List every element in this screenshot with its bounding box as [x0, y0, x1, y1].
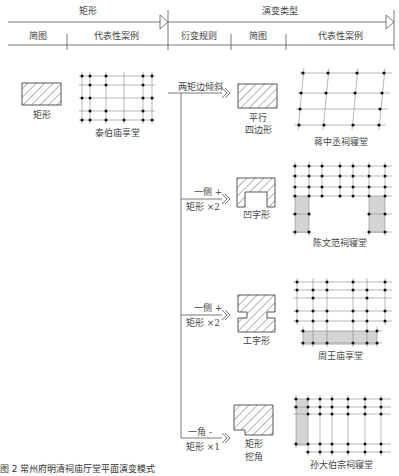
parallelogram-shape-icon	[238, 84, 277, 108]
header-group1-title: 矩形	[79, 6, 97, 17]
header-col-rule: 衍变规则	[181, 31, 217, 42]
branch-3-shape-label: 工字形	[243, 336, 270, 347]
branch-4-shape-label-2: 挖角	[245, 452, 263, 463]
plan-4-grid	[293, 395, 391, 456]
header-lines	[8, 10, 394, 50]
header-col-sketch-2: 简图	[249, 31, 267, 42]
branch-lines	[168, 93, 222, 438]
figure-caption: 图 2 常州府明清祠庙厅堂平面演变模式	[0, 462, 155, 475]
concave-shape-icon	[237, 178, 275, 207]
branch-1-rule: 两矩边倾斜	[178, 82, 223, 93]
branch-1-shape-label-2: 四边形	[245, 125, 272, 136]
plan-1-columns	[297, 71, 385, 126]
origin-shape-label: 矩形	[33, 110, 51, 121]
plan-4-shade	[296, 399, 308, 446]
header-col-cases-1: 代表性案例	[94, 31, 139, 42]
branch-2-rule-1: 一侧 +	[194, 187, 222, 198]
rectangle-shape-icon	[22, 83, 61, 105]
branch-3-rule-2: 矩形 ×2	[186, 318, 220, 329]
plan-2-shade-right	[369, 196, 385, 233]
branch-2-shape-label: 凹字形	[243, 210, 270, 221]
plan-1-grid	[294, 68, 392, 130]
header-col-cases-2: 代表性案例	[318, 31, 363, 42]
branch-4-case-label: 孙大伯宗祠寝堂	[310, 460, 373, 471]
header-group2-title: 演变类型	[262, 6, 298, 17]
branch-1-shape-label-1: 平行	[249, 113, 267, 124]
branch-1-case-label: 蒋中丞祠寝堂	[314, 137, 368, 148]
origin-case-label: 泰伯庙享堂	[95, 128, 140, 139]
transform-arrows	[222, 88, 230, 443]
plan-2-shade-left	[295, 196, 309, 233]
branch-2-case-label: 陈文范祠寝堂	[313, 238, 367, 249]
branch-2-rule-2: 矩形 ×2	[186, 202, 220, 213]
i-shape-icon	[238, 295, 275, 332]
header-col-sketch-1: 简图	[29, 31, 47, 42]
branch-4-shape-label-1: 矩形	[245, 439, 263, 450]
branch-3-rule-1: 一侧 +	[194, 303, 222, 314]
branch-4-rule-1: 一角 -	[188, 427, 212, 438]
cut-corner-shape-icon	[234, 405, 273, 435]
branch-4-rule-2: 矩形 ×1	[186, 442, 220, 453]
branch-3-case-label: 周王庙享堂	[318, 351, 363, 362]
